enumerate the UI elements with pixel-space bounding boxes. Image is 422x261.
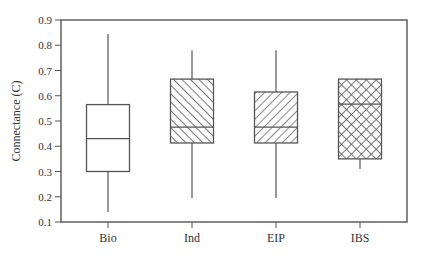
box-group-ind: [171, 50, 214, 198]
iqr-box: [255, 92, 298, 143]
boxplot-chart: 0.10.20.30.40.50.60.70.80.9 BioIndEIPIBS…: [0, 0, 422, 261]
box-group-bio: [87, 34, 130, 212]
iqr-box: [171, 79, 214, 143]
x-tick-label: IBS: [351, 231, 370, 245]
x-tick-label: EIP: [267, 231, 285, 245]
x-axis: BioIndEIPIBS: [99, 222, 369, 245]
y-axis: 0.10.20.30.40.50.60.70.80.9: [38, 14, 61, 228]
boxes: [87, 34, 382, 212]
iqr-box: [339, 79, 382, 159]
x-tick-label: Bio: [99, 231, 116, 245]
y-tick-label: 0.9: [38, 14, 52, 26]
box-group-ibs: [339, 79, 382, 169]
y-tick-label: 0.8: [38, 39, 52, 51]
y-tick-label: 0.4: [38, 140, 52, 152]
y-axis-title: Connectance (C): [9, 81, 23, 162]
x-tick-label: Ind: [184, 231, 200, 245]
y-tick-label: 0.3: [38, 166, 52, 178]
y-tick-label: 0.7: [38, 65, 52, 77]
y-tick-label: 0.6: [38, 90, 52, 102]
y-tick-label: 0.2: [38, 191, 52, 203]
box-group-eip: [255, 50, 298, 198]
y-tick-label: 0.1: [38, 216, 52, 228]
y-tick-label: 0.5: [38, 115, 52, 127]
